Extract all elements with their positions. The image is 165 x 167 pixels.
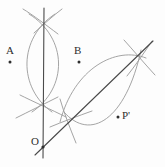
vertical-line [43, 8, 44, 158]
left-crossing-arc-top-arc [23, 9, 58, 34]
right-crossing-arc-arc [124, 40, 155, 75]
point-dot-p-prime [117, 116, 120, 119]
point-dot-o [41, 145, 44, 148]
point-dot-b [78, 61, 81, 64]
geometry-construction-figure: A B O P' [0, 0, 165, 167]
left-crossing-arc-bottom-arc [16, 97, 58, 118]
point-label-o: O [31, 136, 39, 147]
right-arc-upper-arc [60, 55, 146, 122]
point-label-b: B [74, 45, 81, 56]
point-label-p-prime: P' [122, 110, 130, 121]
diagonal-line [35, 41, 153, 155]
point-dot-group [9, 61, 120, 149]
arc-group [16, 9, 155, 143]
construction-canvas [0, 0, 165, 167]
point-dot-a [9, 61, 12, 64]
point-label-a: A [6, 45, 14, 56]
